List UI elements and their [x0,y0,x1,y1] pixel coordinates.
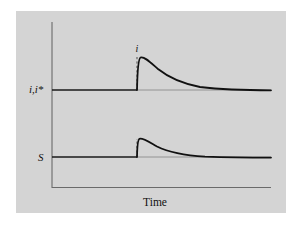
x-axis-title: Time [143,196,167,208]
y-axis-label-exchange-rate: S [38,151,44,163]
exchange-rate-impulse-curve [137,139,271,158]
y-axis-label-interest-rates: i,i* [29,83,44,95]
impulse-response-chart: i,i* S i Time [0,0,306,234]
interest-rate-impulse-curve [137,57,271,90]
figure-root: i,i* S i Time [0,0,306,234]
curve-label-interest-rate-peak: i [136,43,139,54]
